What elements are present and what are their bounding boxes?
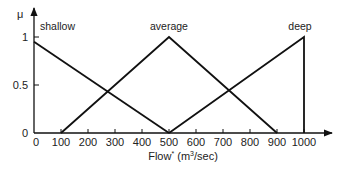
x-tick-label: 400: [133, 136, 151, 148]
series-shallow-label: shallow: [40, 20, 75, 32]
x-tick-label: 1000: [292, 136, 316, 148]
x-tick-label: 0: [33, 136, 39, 148]
x-tick-label: 300: [106, 136, 124, 148]
x-tick-label: 100: [52, 136, 70, 148]
y-ticks: 00.51: [13, 31, 39, 139]
x-tick-label: 800: [241, 136, 259, 148]
x-ticks: 01002003004005006007008009001000: [33, 129, 316, 148]
y-axis-title: μ: [17, 8, 23, 20]
y-tick-label: 0: [22, 127, 28, 139]
series-deep-label: deep: [288, 20, 312, 32]
y-tick-label: 1: [22, 31, 28, 43]
x-tick-label: 700: [214, 136, 232, 148]
x-tick-label: 600: [187, 136, 205, 148]
x-tick-label: 900: [268, 136, 286, 148]
series-deep-line: [169, 37, 304, 133]
x-tick-label: 500: [160, 136, 178, 148]
series-average-label: average: [150, 20, 188, 32]
membership-function-chart: μ 00.51 01002003004005006007008009001000…: [0, 0, 342, 172]
x-axis-title: Flow* (m3/sec): [148, 150, 218, 162]
y-tick-label: 0.5: [13, 79, 28, 91]
series-average-line: [61, 37, 277, 133]
series-group: shallowaveragedeep: [34, 20, 312, 133]
x-tick-label: 200: [79, 136, 97, 148]
